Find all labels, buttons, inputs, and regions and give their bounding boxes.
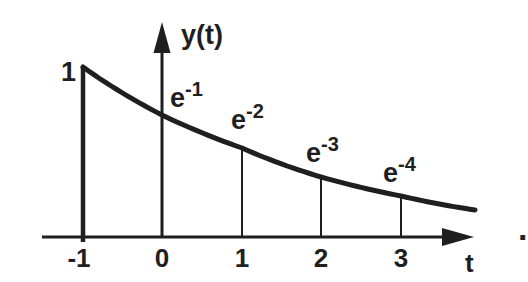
plot-canvas [0, 0, 528, 282]
curve-point-label-exponent: -2 [246, 100, 264, 122]
curve-point-label-base: e [383, 158, 398, 188]
decay-curve [83, 67, 475, 210]
y-axis-arrowhead-icon [154, 22, 171, 53]
trailing-period: . [518, 211, 527, 245]
figure: y(t) t . -101231e-1e-2e-3e-4 [0, 0, 528, 282]
curve-point-label-base: 1 [61, 57, 76, 87]
x-tick-label: 0 [155, 245, 169, 271]
curve-point-label: e-1 [170, 85, 203, 112]
curve-point-label: 1 [61, 59, 76, 86]
x-tick-label: 2 [314, 245, 328, 271]
curve-point-label-exponent: -4 [398, 153, 416, 175]
curve-point-label-base: e [306, 138, 321, 168]
curve-point-label: e-4 [383, 160, 416, 187]
curve-point-label-base: e [170, 83, 185, 113]
x-tick-label: 1 [235, 245, 249, 271]
curve-point-label-base: e [231, 105, 246, 135]
curve-point-label: e-2 [231, 107, 264, 134]
curve-point-label-exponent: -3 [321, 133, 339, 155]
x-tick-label: 3 [394, 245, 408, 271]
curve-point-label-exponent: -1 [185, 78, 203, 100]
y-axis-label: y(t) [181, 22, 223, 49]
x-tick-label: -1 [67, 245, 90, 271]
x-axis-arrowhead-icon [442, 228, 474, 246]
x-axis-label: t [465, 250, 474, 276]
curve-point-label: e-3 [306, 140, 339, 167]
